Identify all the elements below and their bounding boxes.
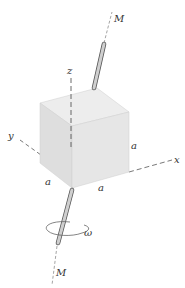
x-axis-line bbox=[129, 160, 172, 172]
top-rod bbox=[94, 44, 104, 88]
label-x-axis: x bbox=[174, 154, 180, 165]
label-side-vertical: a bbox=[131, 140, 137, 151]
y-axis-line bbox=[20, 140, 41, 155]
label-side-left: a bbox=[45, 176, 51, 187]
label-axis-bottom: M bbox=[55, 267, 67, 278]
label-side-right: a bbox=[98, 182, 104, 193]
label-z-axis: z bbox=[66, 65, 73, 76]
cube-diagram: M z y x a a a ω M bbox=[0, 0, 185, 288]
axis-m-top-line bbox=[104, 12, 112, 43]
label-y-axis: y bbox=[7, 130, 14, 141]
label-axis-top: M bbox=[113, 13, 125, 24]
label-angular-velocity: ω bbox=[84, 227, 92, 238]
axis-m-bottom-line bbox=[52, 246, 57, 285]
